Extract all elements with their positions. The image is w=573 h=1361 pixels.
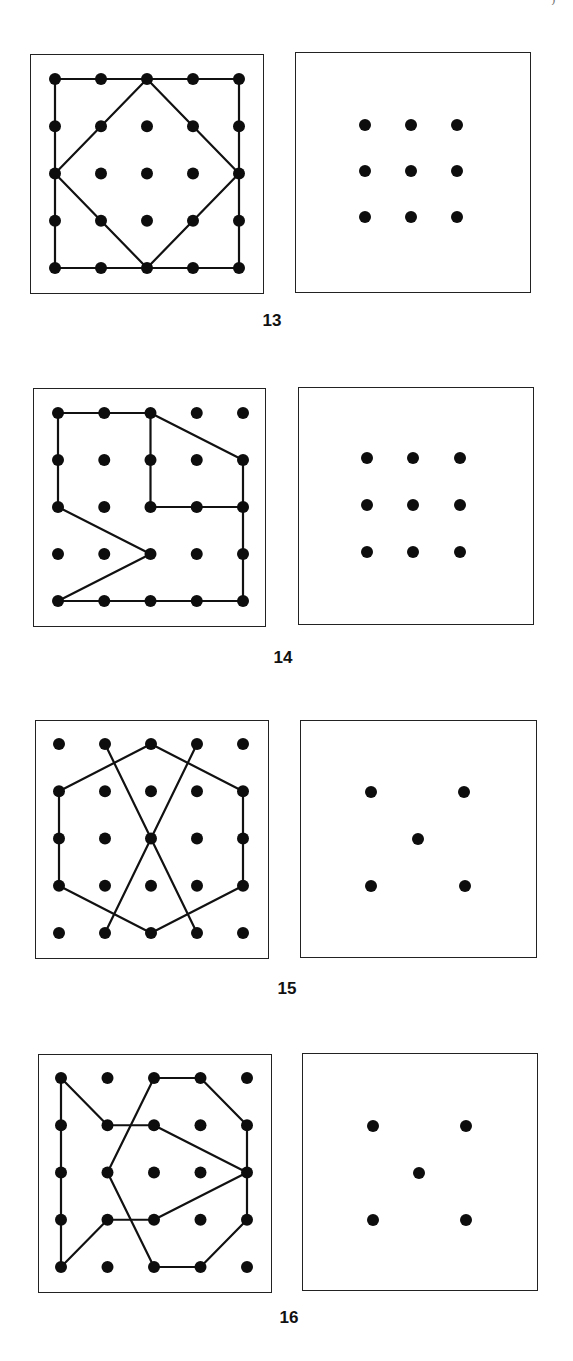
source-geoboard (38, 1054, 272, 1293)
answer-geoboard (295, 52, 531, 293)
answer-geoboard (298, 387, 534, 625)
source-geoboard (33, 388, 266, 627)
source-geoboard (30, 54, 264, 294)
source-geoboard (35, 720, 269, 959)
puzzle-number: 13 (263, 311, 282, 331)
clipped-header-line: ) (0, 0, 573, 5)
answer-geoboard (300, 720, 537, 958)
puzzle-number: 14 (274, 648, 293, 668)
puzzle-number: 16 (280, 1308, 299, 1328)
puzzle-number: 15 (278, 979, 297, 999)
header-right-fragment: ) (551, 0, 555, 5)
answer-geoboard (302, 1053, 538, 1291)
